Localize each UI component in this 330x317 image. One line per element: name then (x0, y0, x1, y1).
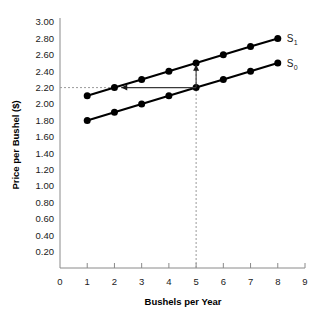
y-tick-label: 2.40 (36, 66, 55, 77)
y-axis-title: Price per Bushel ($) (10, 100, 21, 189)
y-tick-label: 2.00 (36, 98, 55, 109)
data-point-S0 (165, 92, 172, 99)
data-point-S1 (274, 35, 281, 42)
data-point-S0 (220, 76, 227, 83)
series-label-subscript-S1: 1 (294, 39, 298, 46)
data-point-S0 (247, 68, 254, 75)
y-tick-label: 2.60 (36, 49, 55, 60)
axis-lines (60, 18, 305, 268)
x-tick-label: 7 (248, 276, 253, 287)
annotation-arrows (121, 65, 199, 91)
data-point-S1 (111, 84, 118, 91)
y-tick-label: 0.60 (36, 213, 55, 224)
series-points (84, 35, 282, 124)
y-tick-label: 0.40 (36, 230, 55, 241)
x-tick-label: 9 (302, 276, 307, 287)
x-axis-tick-labels: 0123456789 (57, 276, 307, 287)
x-axis-title: Bushels per Year (145, 296, 222, 307)
x-tick-label: 6 (221, 276, 226, 287)
data-point-S0 (84, 117, 91, 124)
series-label-S0: S (287, 58, 294, 69)
series-label-S1: S (287, 33, 294, 44)
y-tick-label: 2.20 (36, 82, 55, 93)
data-point-S1 (247, 43, 254, 50)
chart-canvas: 0.200.400.600.801.001.201.401.601.802.00… (0, 0, 330, 317)
data-point-S0 (274, 60, 281, 67)
x-tick-label: 2 (112, 276, 117, 287)
series-label-subscript-S0: 0 (294, 64, 298, 71)
y-tick-label: 1.00 (36, 180, 55, 191)
y-axis-tick-labels: 0.200.400.600.801.001.201.401.601.802.00… (36, 16, 55, 257)
x-tick-label: 1 (85, 276, 90, 287)
y-tick-label: 2.80 (36, 33, 55, 44)
series-lines (87, 38, 278, 120)
supply-curve-chart: 0.200.400.600.801.001.201.401.601.802.00… (0, 0, 330, 317)
y-tick-label: 1.60 (36, 131, 55, 142)
y-tick-label: 1.20 (36, 164, 55, 175)
x-tick-label: 3 (139, 276, 144, 287)
y-tick-label: 3.00 (36, 16, 55, 27)
y-tick-label: 0.80 (36, 197, 55, 208)
data-point-S0 (138, 101, 145, 108)
x-tick-label: 8 (275, 276, 280, 287)
y-tick-label: 1.80 (36, 115, 55, 126)
x-tick-label: 0 (57, 276, 62, 287)
y-tick-label: 1.40 (36, 148, 55, 159)
series-labels: S1S0 (287, 33, 298, 71)
data-point-S1 (165, 68, 172, 75)
y-tick-label: 0.20 (36, 246, 55, 257)
data-point-S1 (138, 76, 145, 83)
data-point-S0 (111, 109, 118, 116)
x-tick-label: 5 (193, 276, 198, 287)
data-point-S1 (220, 51, 227, 58)
x-tick-label: 4 (166, 276, 171, 287)
data-point-S1 (84, 92, 91, 99)
